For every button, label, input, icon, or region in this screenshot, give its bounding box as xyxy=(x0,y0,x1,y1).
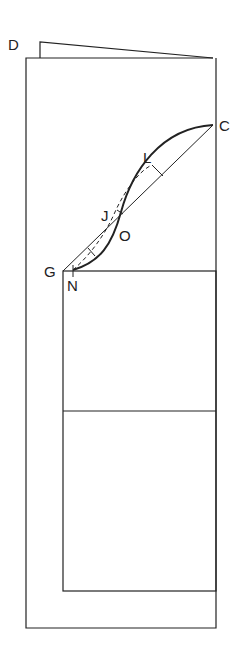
label-c: C xyxy=(219,118,230,133)
label-g: G xyxy=(44,264,56,279)
outer-rectangle xyxy=(26,58,216,628)
inner-rectangle xyxy=(63,271,216,591)
flap-outline xyxy=(40,42,213,58)
tick-l xyxy=(152,165,163,176)
diagram-canvas xyxy=(0,0,241,652)
dashed-curve xyxy=(73,165,152,270)
tick-lower xyxy=(88,248,95,256)
label-d: D xyxy=(8,37,19,52)
label-o: O xyxy=(119,228,131,243)
line-g-c xyxy=(63,125,213,271)
label-j: J xyxy=(101,208,109,223)
label-l: L xyxy=(143,150,151,165)
label-n: N xyxy=(67,278,78,293)
